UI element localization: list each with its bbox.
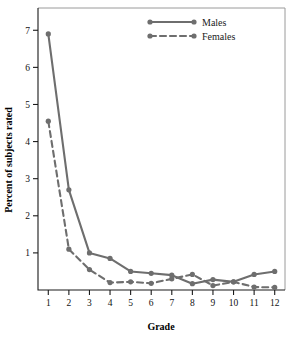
x-tick-label: 6 xyxy=(149,298,154,308)
data-point xyxy=(128,269,133,274)
x-axis-title: Grade xyxy=(147,321,175,332)
x-tick-label: 8 xyxy=(190,298,195,308)
x-tick-label: 4 xyxy=(108,298,113,308)
y-tick-label: 7 xyxy=(25,26,30,36)
x-tick-label: 12 xyxy=(270,298,280,308)
x-tick-label: 2 xyxy=(67,298,72,308)
chart-container: 1234567 123456789101112 Grade Percent of… xyxy=(0,0,297,338)
legend-marker xyxy=(191,33,196,38)
data-point xyxy=(46,119,51,124)
data-point xyxy=(66,247,71,252)
data-point xyxy=(252,284,257,289)
x-tick-label: 11 xyxy=(250,298,259,308)
legend-marker xyxy=(191,19,196,24)
data-point xyxy=(87,267,92,272)
data-point xyxy=(149,271,154,276)
data-point xyxy=(252,272,257,277)
data-point xyxy=(190,281,195,286)
data-point xyxy=(128,279,133,284)
legend-marker xyxy=(147,19,152,24)
data-point xyxy=(107,256,112,261)
x-tick-label: 5 xyxy=(128,298,133,308)
data-point xyxy=(231,279,236,284)
y-tick-label: 3 xyxy=(25,174,30,184)
y-tick-label: 5 xyxy=(25,100,30,110)
x-tick-label: 7 xyxy=(169,298,174,308)
y-tick-label: 4 xyxy=(25,137,30,147)
data-point xyxy=(272,269,277,274)
data-point xyxy=(87,250,92,255)
y-tick-label: 2 xyxy=(25,211,30,221)
x-tick-label: 1 xyxy=(46,298,51,308)
data-point xyxy=(46,31,51,36)
data-point xyxy=(210,283,215,288)
data-point xyxy=(66,187,71,192)
legend-marker xyxy=(147,33,152,38)
data-point xyxy=(190,272,195,277)
y-axis-title: Percent of subjects rated xyxy=(3,107,14,213)
data-point xyxy=(210,277,215,282)
x-tick-label: 3 xyxy=(87,298,92,308)
data-point xyxy=(169,276,174,281)
data-point xyxy=(272,285,277,290)
x-tick-label: 9 xyxy=(211,298,216,308)
legend-label: Males xyxy=(202,17,227,28)
y-tick-label: 6 xyxy=(25,63,30,73)
legend-label: Females xyxy=(202,31,235,42)
line-chart: 1234567 123456789101112 Grade Percent of… xyxy=(0,0,297,338)
x-tick-label: 10 xyxy=(229,298,239,308)
y-tick-label: 1 xyxy=(25,248,30,258)
data-point xyxy=(107,280,112,285)
data-point xyxy=(149,281,154,286)
